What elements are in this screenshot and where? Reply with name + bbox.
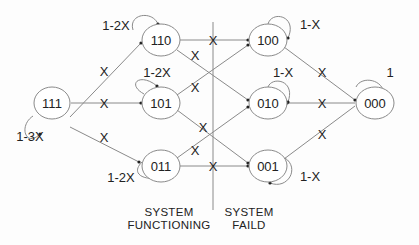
loop-label-101: 1-2X xyxy=(143,65,171,80)
region-left-line1: SYSTEM xyxy=(144,206,193,218)
loop-label-011: 1-2X xyxy=(107,170,135,185)
node-label: 111 xyxy=(42,96,62,111)
edge-label: X xyxy=(209,159,218,174)
edge-label: X xyxy=(191,80,200,95)
node-label: 001 xyxy=(257,159,279,174)
region-left-line2: FUNCTIONING xyxy=(127,219,210,231)
node-label: 101 xyxy=(150,96,172,111)
edge-label: X xyxy=(318,96,327,111)
edge-label: X xyxy=(199,120,208,135)
node-label: 010 xyxy=(257,96,279,111)
edge-label: X xyxy=(191,143,200,158)
loop-label-110: 1-2X xyxy=(102,18,130,33)
loop-label-000: 1 xyxy=(386,65,393,80)
edge-label: X xyxy=(209,33,218,48)
loop-label-100: 1-X xyxy=(300,17,321,32)
state-diagram: 111 110 101 011 100 010 001 000 1-3X 1-2… xyxy=(0,0,419,245)
node-label: 110 xyxy=(151,33,172,48)
edge-label: X xyxy=(100,130,109,145)
edge-label: X xyxy=(100,64,109,79)
loop-label-010: 1-X xyxy=(273,65,294,80)
edge-label: X xyxy=(100,96,109,111)
loop-label-111: 1-3X xyxy=(16,129,44,144)
region-right-line1: SYSTEM xyxy=(224,206,273,218)
edge-label: X xyxy=(318,127,327,142)
diagram-canvas: 111 110 101 011 100 010 001 000 1-3X 1-2… xyxy=(0,0,419,245)
node-label: 011 xyxy=(151,159,172,174)
node-label: 100 xyxy=(257,33,279,48)
region-right-line2: FAILD xyxy=(232,219,265,231)
node-label: 000 xyxy=(364,96,386,111)
edges xyxy=(25,15,384,184)
edge-label: X xyxy=(318,65,327,80)
loop-label-001: 1-X xyxy=(300,169,321,184)
edge-label: X xyxy=(191,48,200,63)
